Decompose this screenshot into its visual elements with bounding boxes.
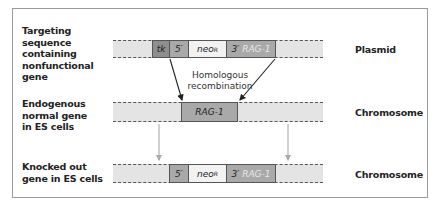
recombination-arrow-right bbox=[240, 59, 275, 100]
arrows-layer bbox=[0, 0, 439, 208]
recombination-arrow-left bbox=[170, 59, 182, 100]
